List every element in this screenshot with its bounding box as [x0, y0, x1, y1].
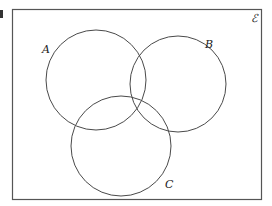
venn-diagram: ℰ A B C [0, 0, 272, 206]
set-c-circle [71, 96, 171, 196]
universal-set-label: ℰ [251, 12, 259, 25]
set-a-circle [46, 30, 146, 130]
set-b-label: B [204, 38, 213, 51]
set-a-label: A [41, 43, 50, 56]
figure-marker [0, 10, 3, 18]
set-c-label: C [165, 178, 174, 191]
universal-set-rectangle [13, 10, 262, 200]
